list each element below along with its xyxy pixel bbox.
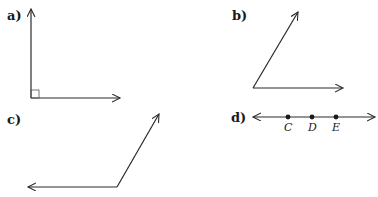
- point-e-label: E: [331, 121, 340, 134]
- figure-b-label: b): [232, 8, 247, 23]
- angles-diagram: a) b) c) d) C D E: [0, 0, 378, 197]
- figure-b: b): [232, 8, 343, 88]
- figure-d-label: d): [231, 110, 246, 125]
- point-c: [286, 115, 291, 120]
- ray-diagonal: [117, 114, 159, 187]
- point-e: [334, 115, 339, 120]
- figure-a-label: a): [7, 8, 22, 23]
- right-angle-marker: [31, 90, 39, 98]
- point-d: [310, 115, 315, 120]
- figure-c: c): [7, 112, 159, 187]
- point-c-label: C: [284, 121, 293, 134]
- point-d-label: D: [307, 121, 317, 134]
- figure-d: d) C D E: [231, 110, 375, 134]
- ray-diagonal: [253, 12, 298, 88]
- figure-a: a): [7, 8, 120, 98]
- figure-c-label: c): [7, 112, 21, 127]
